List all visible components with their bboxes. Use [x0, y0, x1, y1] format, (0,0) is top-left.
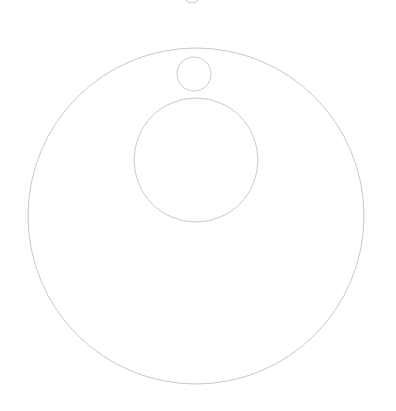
small-circle: [177, 57, 211, 91]
top-partial-circle: [183, 0, 201, 3]
middle-circle: [134, 98, 258, 222]
diagram-canvas: [0, 0, 396, 411]
